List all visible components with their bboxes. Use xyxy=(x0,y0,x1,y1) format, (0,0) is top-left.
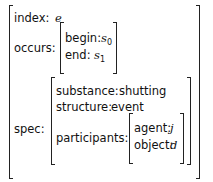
spec-label: spec: xyxy=(14,123,45,136)
end-label: end: xyxy=(65,49,91,62)
spec-left-bracket xyxy=(51,77,55,165)
begin-value: s0 xyxy=(101,32,112,49)
agent-label: agent: xyxy=(134,122,171,135)
object-value: d xyxy=(170,139,177,152)
outer-right-bracket xyxy=(196,5,200,179)
occurs-label: occurs: xyxy=(14,42,56,55)
begin-label: begin: xyxy=(65,32,101,45)
outer-left-bracket xyxy=(9,5,13,179)
structure-value: event xyxy=(111,101,144,114)
spec-right-bracket xyxy=(187,77,191,165)
object-label: object: xyxy=(134,139,173,152)
substance-value: shutting xyxy=(119,85,166,98)
end-value: s1 xyxy=(94,49,105,66)
structure-label: structure: xyxy=(56,101,112,114)
occurs-right-bracket xyxy=(113,22,117,74)
index-label: index: xyxy=(14,12,49,25)
participants-right-bracket xyxy=(180,113,184,164)
substance-label: substance: xyxy=(56,85,119,98)
participants-left-bracket xyxy=(129,113,133,164)
occurs-left-bracket xyxy=(60,22,64,74)
agent-value: j xyxy=(170,122,174,135)
participants-label: participants: xyxy=(56,132,128,145)
